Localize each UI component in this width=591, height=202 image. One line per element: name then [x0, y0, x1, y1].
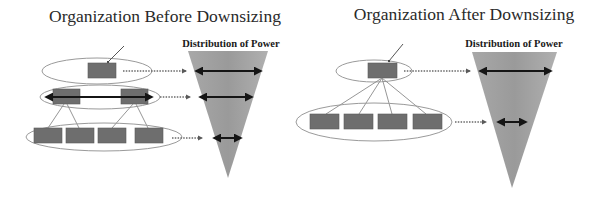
distribution-label: Distribution of Power [182, 38, 280, 49]
power-triangle [472, 52, 557, 188]
org-box-bottom-4 [135, 128, 163, 143]
distribution-label: Distribution of Power [465, 38, 563, 49]
downsizing-diagram: Organization Before Downsizing Distribut… [0, 0, 591, 202]
org-box-bottom-2 [344, 114, 373, 129]
panel-title: Organization After Downsizing [354, 4, 575, 24]
pointer-line [389, 44, 403, 61]
org-box-bottom-3 [378, 114, 407, 129]
panel-after: Organization After Downsizing Distributi… [296, 4, 574, 188]
panel-title: Organization Before Downsizing [49, 6, 281, 26]
org-box-bottom-1 [310, 114, 339, 129]
org-box-top [88, 63, 116, 78]
panel-before: Organization Before Downsizing Distribut… [26, 6, 281, 178]
org-box-bottom-2 [66, 128, 94, 143]
org-box-top [368, 63, 397, 78]
org-box-bottom-4 [413, 114, 442, 129]
org-box-bottom-3 [98, 128, 126, 143]
org-box-bottom-1 [34, 128, 62, 143]
connector-lines [326, 78, 426, 114]
